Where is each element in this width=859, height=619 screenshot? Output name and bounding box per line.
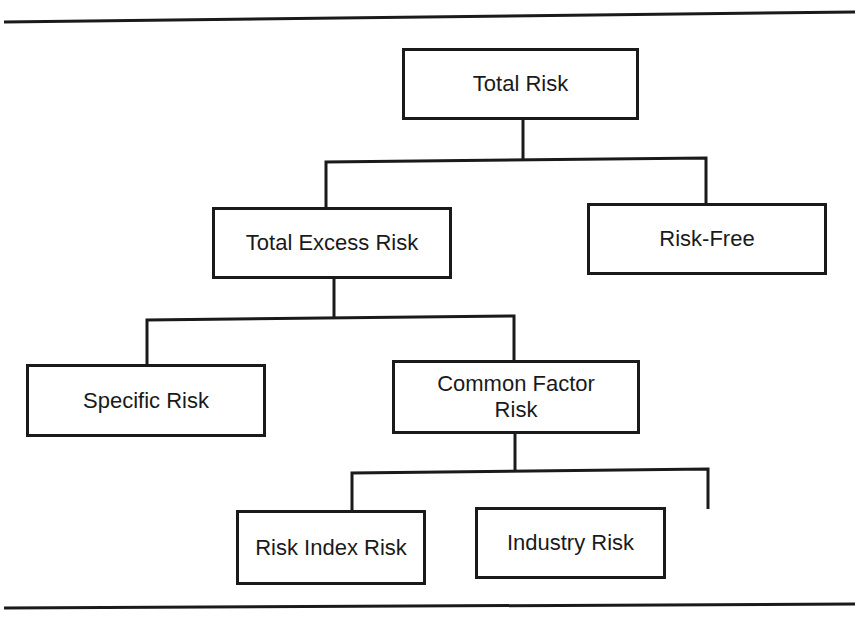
node-label: Common Factor Risk <box>415 371 617 423</box>
node-common-factor-risk: Common Factor Risk <box>392 360 640 434</box>
node-label: Total Risk <box>473 71 568 97</box>
node-specific-risk: Specific Risk <box>26 364 266 437</box>
node-industry-risk: Industry Risk <box>475 507 666 579</box>
node-total-risk: Total Risk <box>402 48 639 120</box>
node-label: Specific Risk <box>83 388 209 414</box>
top-rule <box>4 12 855 22</box>
node-risk-free: Risk-Free <box>587 203 827 275</box>
node-label: Industry Risk <box>507 530 634 556</box>
node-label: Risk-Free <box>659 226 754 252</box>
node-label: Total Excess Risk <box>246 230 418 256</box>
node-risk-index-risk: Risk Index Risk <box>236 510 426 585</box>
node-label: Risk Index Risk <box>255 535 407 561</box>
bottom-rule <box>4 604 855 608</box>
node-total-excess-risk: Total Excess Risk <box>212 207 452 279</box>
